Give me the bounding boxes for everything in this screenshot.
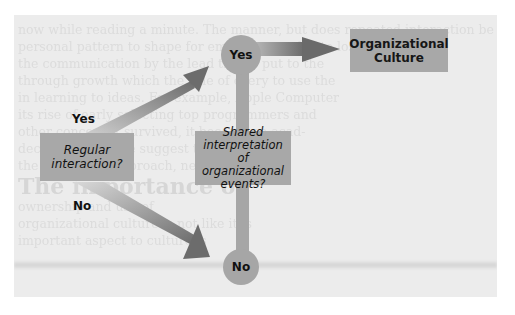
decision-1-line: interaction? (51, 157, 122, 171)
decision-regular-interaction: Regular interaction? (40, 133, 134, 181)
no-node-label: No (232, 260, 250, 274)
outcome-line: Culture (349, 51, 448, 65)
outcome-line: Organizational (349, 37, 448, 51)
yes-arrow (72, 66, 209, 140)
yes-node: Yes (221, 35, 261, 75)
decision-2-line: interpretation (195, 139, 291, 152)
culture-arrow (250, 37, 340, 62)
decision-2-line: Shared (195, 126, 291, 139)
decision-2-line: of organizational (195, 152, 291, 178)
decision-1-line: Regular (51, 143, 122, 157)
decision-2-line: events? (195, 178, 291, 191)
yes-node-label: Yes (230, 48, 253, 62)
branch-label-no: No (73, 199, 91, 213)
branch-label-yes: Yes (72, 112, 95, 126)
no-node: No (223, 249, 259, 285)
no-arrow (74, 182, 210, 259)
outcome-organizational-culture: Organizational Culture (350, 29, 448, 72)
decision-shared-interpretation: Shared interpretation of organizational … (195, 131, 291, 185)
